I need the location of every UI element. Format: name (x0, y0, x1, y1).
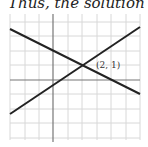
grid (10, 14, 140, 140)
intersection-label: (2, 1) (96, 60, 120, 70)
line-2 (10, 27, 140, 114)
graph: (2, 1) (0, 0, 148, 147)
line-1 (10, 29, 140, 94)
